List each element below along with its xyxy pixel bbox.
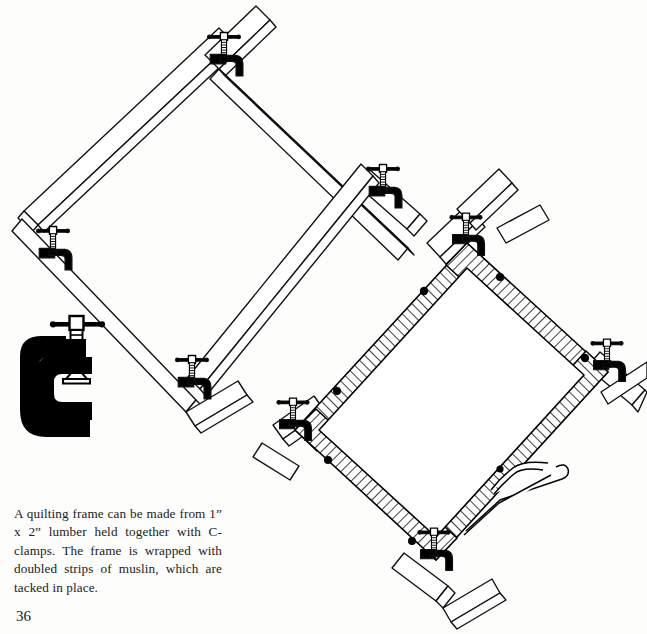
frame1-board-upper-left — [18, 28, 239, 232]
c-clamp-detail — [20, 316, 105, 437]
book-page: A quilting frame can be made from 1” x 2… — [0, 0, 647, 634]
page-number: 36 — [16, 608, 31, 625]
caption-text: A quilting frame can be made from 1” x 2… — [14, 505, 222, 597]
caption-paragraph: A quilting frame can be made from 1” x 2… — [14, 505, 222, 597]
